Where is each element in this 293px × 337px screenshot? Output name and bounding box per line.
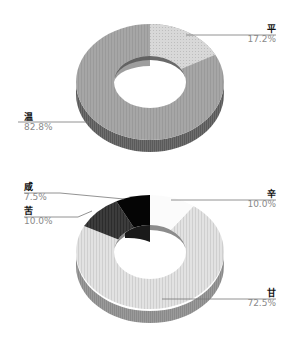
label-ku: 苦 10.0% xyxy=(24,206,53,226)
nature-donut-chart: 平 17.2% 温 82.8% xyxy=(0,0,293,170)
label-wen: 温 82.8% xyxy=(24,112,53,132)
label-gan: 甘 72.5% xyxy=(236,288,276,308)
label-xian: 咸 7.5% xyxy=(24,182,47,202)
flavor-donut-chart: 咸 7.5% 苦 10.0% 辛 10.0% 甘 72.5% xyxy=(0,170,293,337)
label-ping: 平 17.2% xyxy=(236,24,276,44)
label-xin: 辛 10.0% xyxy=(236,189,276,209)
